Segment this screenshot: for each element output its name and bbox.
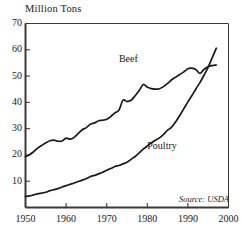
y-axis-tick-label: 40	[0, 96, 22, 107]
y-axis-tick-label: 30	[0, 122, 22, 133]
x-axis-tick-label: 1960	[46, 213, 86, 224]
x-axis-tick-label: 1970	[87, 213, 127, 224]
series-label-beef: Beef	[119, 53, 138, 64]
x-axis-tick-label: 1980	[127, 213, 167, 224]
series-line-beef	[26, 65, 217, 156]
x-axis-tick-label: 1990	[168, 213, 208, 224]
source-note: Source: USDA	[179, 194, 229, 204]
y-axis-tick-label: 50	[0, 70, 22, 81]
x-axis-tick-label: 2000	[209, 213, 242, 224]
y-axis-tick-label: 20	[0, 148, 22, 159]
y-axis-tick-label: 60	[0, 43, 22, 54]
series-label-poultry: Poultry	[147, 140, 176, 151]
y-axis-tick-label: 70	[0, 17, 22, 28]
y-axis-tick-label: 10	[0, 175, 22, 186]
series-line-poultry	[26, 48, 217, 196]
chart-figure: Million Tons 706050403020101950196019701…	[0, 0, 241, 236]
x-axis-tick-label: 1950	[6, 213, 46, 224]
